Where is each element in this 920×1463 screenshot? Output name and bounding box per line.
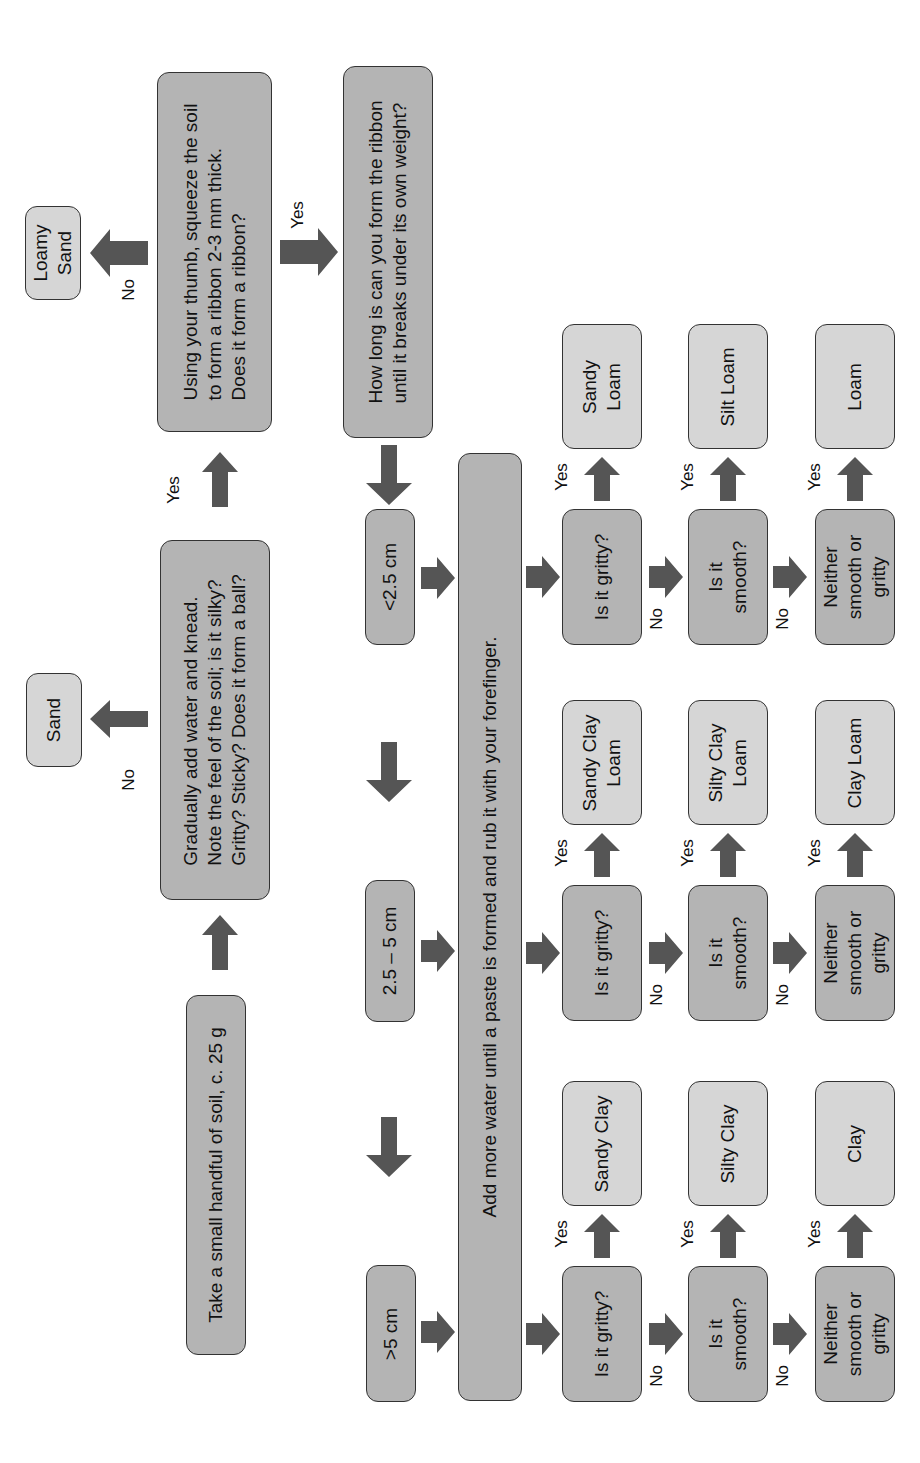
arrow-up-icon [584,833,620,877]
yes-label: Yes [805,463,825,491]
yes-label: Yes [552,839,572,867]
arrow-right-icon [421,930,455,972]
result-box: Silty Clay [688,1081,768,1206]
result-box: Silty Clay Loam [688,700,768,825]
question-text: Is it gritty? [590,910,614,997]
question-box-neither: Neither smooth or gritty [815,1266,895,1402]
no-label: No [773,984,793,1006]
yes-label: Yes [552,463,572,491]
no-label: No [647,608,667,630]
result-box: Sandy Loam [562,324,642,449]
result-loamy-sand-text: Loamy Sand [29,224,77,281]
question-box-neither: Neither smooth or gritty [815,509,895,645]
arrow-right-icon [526,1313,560,1355]
no-label: No [647,1365,667,1387]
question-box-smooth: Is it smooth? [688,1266,768,1402]
question-box-gritty: Is it gritty? [562,1266,642,1402]
result-box: Silt Loam [688,324,768,449]
knead-step-text: Gradually add water and knead. Note the … [179,574,251,865]
range-box-medium: 2.5 – 5 cm [365,880,415,1022]
result-text: Silt Loam [716,347,740,426]
result-box: Sandy Clay [562,1081,642,1206]
question-text: Neither smooth or gritty [819,1292,891,1376]
yes-label: Yes [805,1220,825,1248]
arrow-right-icon [526,932,560,974]
yes-label: Yes [678,463,698,491]
arrow-right-icon [773,556,807,598]
arrow-down-icon [366,742,412,802]
arrow-down-icon [366,445,412,505]
result-box: Sandy Clay Loam [562,700,642,825]
range-text: <2.5 cm [378,543,402,611]
arrow-right-icon [649,556,683,598]
arrow-left-icon [90,229,148,277]
no-label: No [119,279,139,301]
result-box: Clay Loam [815,700,895,825]
no-label: No [647,984,667,1006]
arrow-right-icon [421,557,455,599]
range-box-long: >5 cm [366,1265,416,1402]
result-sand: Sand [26,673,82,767]
ribbon-step-box: Using your thumb, squeeze the soil to fo… [157,72,272,432]
result-loamy-sand: Loamy Sand [25,206,81,300]
arrow-up-icon [202,452,238,507]
start-step-box: Take a small handful of soil, c. 25 g [186,995,246,1355]
arrow-right-icon [773,932,807,974]
arrow-right-icon [526,556,560,598]
yes-label: Yes [678,839,698,867]
result-text: Silty Clay [716,1104,740,1183]
range-text: 2.5 – 5 cm [378,907,402,996]
result-sand-text: Sand [42,698,66,742]
no-label: No [773,608,793,630]
ribbon-step-text: Using your thumb, squeeze the soil to fo… [179,104,251,401]
arrow-up-icon [202,915,238,970]
result-text: Sandy Loam [578,360,626,414]
arrow-up-icon [837,1214,873,1258]
yes-label: Yes [288,201,308,229]
question-box-gritty: Is it gritty? [562,885,642,1021]
yes-label: Yes [805,839,825,867]
arrow-up-icon [837,833,873,877]
knead-step-box: Gradually add water and knead. Note the … [160,540,270,900]
ribbon-length-text: How long is can you form the ribbon unti… [364,100,412,403]
result-text: Sandy Clay Loam [578,714,626,811]
arrow-right-icon [649,1313,683,1355]
question-text: Is it smooth? [704,917,752,990]
arrow-up-icon [710,833,746,877]
yes-label: Yes [164,476,184,504]
question-text: Neither smooth or gritty [819,535,891,619]
paste-step-box: Add more water until a paste is formed a… [458,453,522,1401]
result-text: Clay Loam [843,717,867,808]
arrow-right-icon [649,932,683,974]
arrow-left-icon [90,700,148,738]
paste-step-text: Add more water until a paste is formed a… [478,637,502,1218]
arrow-up-icon [710,457,746,501]
question-text: Is it smooth? [704,1298,752,1371]
question-text: Neither smooth or gritty [819,911,891,995]
question-text: Is it smooth? [704,541,752,614]
question-box-smooth: Is it smooth? [688,885,768,1021]
yes-label: Yes [678,1220,698,1248]
result-text: Sandy Clay [590,1095,614,1192]
ribbon-length-box: How long is can you form the ribbon unti… [343,66,433,438]
arrow-up-icon [710,1214,746,1258]
question-box-neither: Neither smooth or gritty [815,885,895,1021]
result-box: Loam [815,324,895,449]
arrow-up-icon [584,457,620,501]
no-label: No [119,769,139,791]
range-box-short: <2.5 cm [365,509,415,645]
arrow-down-icon [366,1117,412,1177]
question-box-smooth: Is it smooth? [688,509,768,645]
arrow-up-icon [584,1214,620,1258]
range-text: >5 cm [379,1307,403,1359]
arrow-up-icon [837,457,873,501]
no-label: No [773,1365,793,1387]
question-box-gritty: Is it gritty? [562,509,642,645]
result-box: Clay [815,1081,895,1206]
yes-label: Yes [552,1220,572,1248]
question-text: Is it gritty? [590,534,614,621]
arrow-right-icon [773,1313,807,1355]
start-step-text: Take a small handful of soil, c. 25 g [204,1027,228,1323]
result-text: Loam [843,363,867,411]
arrow-right-icon [280,228,338,276]
